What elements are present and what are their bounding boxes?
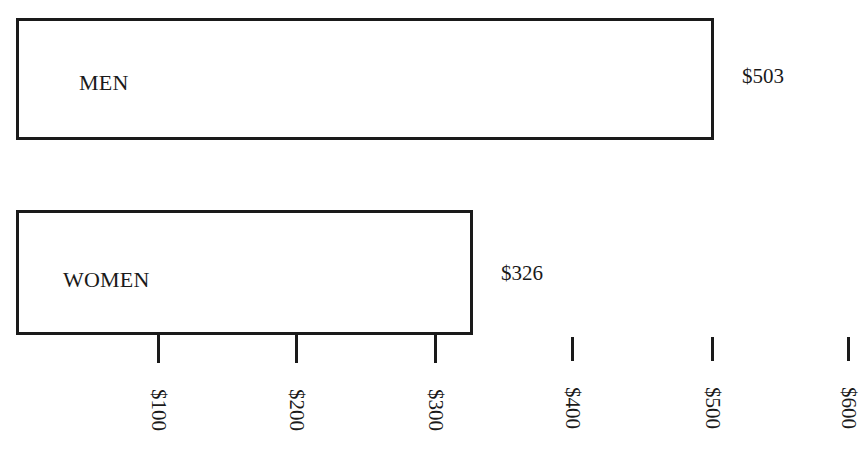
tick-300 [434, 335, 437, 363]
tick-label-400: $400 [561, 378, 585, 438]
tick-400 [571, 337, 574, 361]
value-label-women: $326 [501, 261, 543, 286]
tick-100 [157, 335, 160, 363]
bar-men: MEN [16, 18, 714, 140]
tick-600 [847, 337, 850, 361]
tick-label-200: $200 [285, 380, 309, 440]
bar-women: WOMEN [16, 210, 473, 335]
tick-label-100: $100 [147, 380, 171, 440]
value-label-men: $503 [742, 64, 784, 89]
tick-label-300: $300 [424, 380, 448, 440]
tick-label-600: $600 [837, 378, 861, 438]
tick-200 [295, 335, 298, 363]
bar-label-women: WOMEN [63, 267, 150, 293]
tick-label-500: $500 [701, 378, 725, 438]
tick-500 [711, 337, 714, 361]
bar-label-men: MEN [79, 70, 129, 96]
